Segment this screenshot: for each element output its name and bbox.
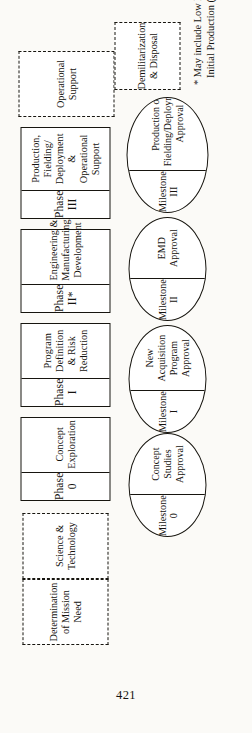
dashed-box-operational-support: Operational Support (19, 51, 115, 117)
milestone-header-label: Milestone III (156, 171, 179, 212)
phase-body: Program Definition & Risk Reduction (22, 324, 110, 378)
phase-header: Phase 0 (22, 472, 110, 500)
milestone-header-label: Milestone I (156, 391, 179, 432)
milestone-body-label: New Acquisition Program Approval (144, 330, 191, 386)
phase-body-label: Program Definition & Risk Reduction (41, 327, 89, 375)
phase-box-phase-0: Phase 0 Concept Exploration (21, 417, 111, 501)
acquisition-lifecycle-diagram: Determination of Mission Need Science & … (19, 25, 234, 645)
milestone-ellipse-milestone-0: Milestone 0 Concept Studies Approval (129, 433, 207, 537)
dashed-box-determination-of-mission-need: Determination of Mission Need (23, 579, 109, 645)
phase-header-label: Phase 0 (53, 473, 79, 500)
milestone-body-label: Concept Studies Approval (150, 438, 185, 490)
phase-box-phase-i: Phase I Program Definition & Risk Reduct… (21, 323, 111, 407)
milestone-body-label: Production or Fielding/Deployment Approv… (150, 97, 185, 166)
scanned-page: Determination of Mission Need Science & … (0, 0, 252, 733)
phase-body-label: Concept Exploration (53, 420, 77, 469)
phase-body-label: Production, Fielding/ Deployment & Opera… (29, 131, 101, 187)
dashed-box-label: Operational Support (54, 60, 78, 108)
dashed-box-science-and-technology: Science & Technology (23, 513, 109, 579)
page-number: 421 (0, 688, 252, 703)
milestone-header: Milestone III (128, 170, 208, 212)
phase-box-phase-iii: Phase III Production, Fielding/ Deployme… (21, 127, 111, 219)
phase-header: Phase I (22, 378, 110, 406)
phase-body-label: Engineering & Manufacturing Development (47, 219, 83, 280)
milestone-header: Milestone I (130, 390, 206, 432)
milestone-body: Concept Studies Approval (130, 434, 206, 494)
milestone-ellipse-milestone-i: Milestone I New Acquisition Program Appr… (129, 325, 207, 433)
dashed-box-label: Demilitarization & Disposal (135, 23, 159, 90)
milestone-body: Production or Fielding/Deployment Approv… (128, 97, 208, 170)
milestone-body-label: EMD Approval (156, 229, 180, 267)
phase-header: Phase II* (22, 284, 110, 312)
phase-header-label: Phase I (53, 379, 79, 406)
phase-body: Engineering & Manufacturing Development (22, 216, 110, 283)
phase-body: Production, Fielding/ Deployment & Opera… (22, 128, 110, 190)
phase-header: Phase III (22, 190, 110, 218)
milestone-header: Milestone 0 (130, 494, 206, 536)
figure-footnote: * May include Low Rate Initial Productio… (191, 0, 218, 85)
phase-body: Concept Exploration (22, 417, 110, 472)
phase-header-label: Phase II* (53, 285, 79, 312)
dashed-box-label: Determination of Mission Need (47, 582, 84, 642)
milestone-header-label: Milestone II (156, 279, 179, 320)
milestone-header-label: Milestone 0 (156, 495, 179, 536)
milestone-body: New Acquisition Program Approval (130, 326, 206, 390)
milestone-ellipse-milestone-iii: Milestone III Production or Fielding/Dep… (127, 97, 209, 213)
milestone-ellipse-milestone-ii: Milestone II EMD Approval (129, 217, 207, 321)
phase-box-phase-ii: Phase II* Engineering & Manufacturing De… (21, 229, 111, 313)
dashed-box-demilitarization-and-disposal: Demilitarization & Disposal (115, 22, 181, 90)
milestone-body: EMD Approval (130, 218, 206, 278)
dashed-box-label: Science & Technology (53, 522, 77, 570)
phase-header-label: Phase III (53, 191, 79, 218)
milestone-header: Milestone II (130, 278, 206, 320)
